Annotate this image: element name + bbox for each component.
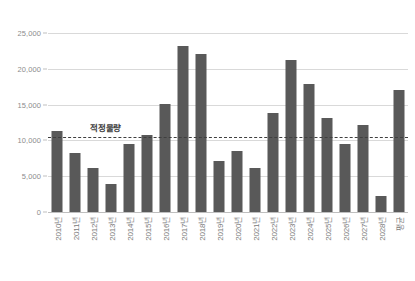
bar-slot: [66, 33, 84, 212]
x-axis-label-slot: 2018년: [192, 212, 210, 281]
bar[interactable]: [52, 131, 63, 212]
x-axis-label-slot: 2024년: [300, 212, 318, 281]
x-axis-label-slot: 2015년: [138, 212, 156, 281]
x-axis-tick-label: 2012년: [88, 217, 99, 241]
x-axis-tick-label: 2027년: [358, 217, 369, 241]
y-axis-tick-mark: [43, 68, 47, 69]
bar[interactable]: [322, 118, 333, 212]
bar-slot: [318, 33, 336, 212]
y-axis-tick-mark: [43, 140, 47, 141]
y-axis-tick-label: 0: [0, 208, 41, 217]
bar[interactable]: [232, 151, 243, 212]
bar[interactable]: [376, 196, 387, 212]
x-axis-tick-label: 2014년: [124, 217, 135, 241]
bar-slot: [192, 33, 210, 212]
bar[interactable]: [250, 168, 261, 212]
bar[interactable]: [160, 104, 171, 212]
x-axis-label-slot: 2010년: [48, 212, 66, 281]
bar[interactable]: [304, 84, 315, 212]
bar-slot: [390, 33, 408, 212]
y-axis-tick-label: 25,000: [0, 29, 41, 38]
bar[interactable]: [88, 168, 99, 212]
bar-slot: [336, 33, 354, 212]
bar-slot: [372, 33, 390, 212]
bar-slot: [156, 33, 174, 212]
y-axis-tick-label: 15,000: [0, 100, 41, 109]
bar[interactable]: [70, 153, 81, 212]
bar[interactable]: [142, 135, 153, 212]
x-axis-tick-label: 2018년: [196, 217, 207, 241]
bar[interactable]: [196, 54, 207, 212]
x-axis-tick-label: 2024년: [304, 217, 315, 241]
target-line-label: 적정물량: [90, 121, 121, 133]
x-axis-tick-label: 2019년: [214, 217, 225, 241]
x-axis-tick-label: 2028년: [376, 217, 387, 241]
bar[interactable]: [268, 113, 279, 212]
x-axis-label-slot: 2017년: [174, 212, 192, 281]
x-axis-label-slot: 2023년: [282, 212, 300, 281]
bar-slot: [354, 33, 372, 212]
bar-slot: [210, 33, 228, 212]
x-axis-label-slot: 2019년: [210, 212, 228, 281]
bar[interactable]: [178, 46, 189, 212]
x-axis-tick-label: 평균: [394, 217, 405, 231]
y-axis-tick-label: 20,000: [0, 64, 41, 73]
bar-slot: [48, 33, 66, 212]
x-axis-tick-label: 2022년: [268, 217, 279, 241]
x-axis-label-slot: 2022년: [264, 212, 282, 281]
y-axis-tick-mark: [43, 212, 47, 213]
x-axis-label-slot: 2016년: [156, 212, 174, 281]
bar[interactable]: [394, 90, 405, 212]
bar[interactable]: [124, 144, 135, 212]
x-axis-tick-label: 2015년: [142, 217, 153, 241]
x-axis-label-slot: 2027년: [354, 212, 372, 281]
bar-slot: [282, 33, 300, 212]
bar-slot: [300, 33, 318, 212]
x-axis-label-slot: 2025년: [318, 212, 336, 281]
x-axis-label-slot: 평균: [390, 212, 408, 281]
x-axis-tick-label: 2026년: [340, 217, 351, 241]
x-axis-label-slot: 2013년: [102, 212, 120, 281]
x-axis-label-slot: 2028년: [372, 212, 390, 281]
x-axis-tick-label: 2016년: [160, 217, 171, 241]
bar[interactable]: [340, 144, 351, 212]
x-axis-tick-label: 2023년: [286, 217, 297, 241]
x-axis-tick-label: 2010년: [52, 217, 63, 241]
x-axis-label-slot: 2026년: [336, 212, 354, 281]
x-axis-tick-label: 2011년: [70, 217, 81, 240]
x-axis-label-slot: 2021년: [246, 212, 264, 281]
bar[interactable]: [106, 184, 117, 212]
bar-slot: [138, 33, 156, 212]
target-line: [48, 137, 408, 138]
x-axis-label-slot: 2014년: [120, 212, 138, 281]
x-axis-label-slot: 2012년: [84, 212, 102, 281]
bar-slot: [246, 33, 264, 212]
bar-slot: [120, 33, 138, 212]
x-axis-tick-label: 2025년: [322, 217, 333, 241]
bar-slot: [174, 33, 192, 212]
y-axis-tick-mark: [43, 176, 47, 177]
x-axis-labels: 2010년2011년2012년2013년2014년2015년2016년2017년…: [48, 212, 408, 281]
y-axis-tick-label: 10,000: [0, 136, 41, 145]
y-axis-tick-mark: [43, 104, 47, 105]
bar-slot: [228, 33, 246, 212]
bar[interactable]: [214, 161, 225, 212]
bar-chart: 05,00010,00015,00020,00025,000 적정물량 2010…: [0, 0, 415, 281]
x-axis-label-slot: 2020년: [228, 212, 246, 281]
x-axis-tick-label: 2017년: [178, 217, 189, 241]
x-axis-tick-label: 2020년: [232, 217, 243, 241]
bar-slot: [264, 33, 282, 212]
x-axis-label-slot: 2011년: [66, 212, 84, 281]
x-axis-tick-label: 2013년: [106, 217, 117, 241]
x-axis-tick-label: 2021년: [250, 217, 261, 241]
plot-area: 적정물량: [48, 33, 408, 212]
y-axis-tick-mark: [43, 33, 47, 34]
y-axis-tick-label: 5,000: [0, 172, 41, 181]
